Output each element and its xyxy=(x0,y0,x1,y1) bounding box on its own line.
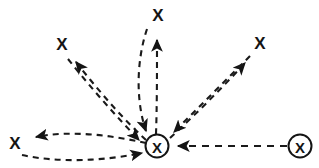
left-label: X xyxy=(9,134,21,153)
node-upper-right[interactable]: X xyxy=(254,34,266,53)
upper-left-label: X xyxy=(56,35,68,54)
node-left[interactable]: X xyxy=(9,134,21,153)
edge-left-to-hub xyxy=(22,153,142,160)
node-right[interactable]: X xyxy=(289,135,312,158)
edge-upper-right-to-hub xyxy=(174,56,250,132)
edge-top-to-hub xyxy=(139,29,147,131)
upper-right-label: X xyxy=(254,34,266,53)
edge-hub-to-left xyxy=(36,134,146,143)
diagram-canvas: X X X X X X xyxy=(0,0,319,168)
top-label: X xyxy=(152,6,164,25)
diagram-svg: X X X X X X xyxy=(0,0,319,168)
edge-hub-to-upper-left xyxy=(76,62,146,140)
node-hub[interactable]: X xyxy=(146,135,169,158)
node-top[interactable]: X xyxy=(152,6,164,25)
edge-hub-to-top xyxy=(156,40,157,134)
right-label: X xyxy=(295,139,305,156)
edge-hub-to-upper-right xyxy=(170,63,245,138)
node-upper-left[interactable]: X xyxy=(56,35,68,54)
edge-upper-left-to-hub xyxy=(68,59,139,140)
hub-label: X xyxy=(152,139,162,156)
